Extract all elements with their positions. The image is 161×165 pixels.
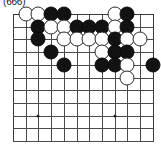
- grid-line-horizontal: [13, 103, 154, 104]
- go-board[interactable]: [10, 11, 157, 159]
- grid-line-horizontal: [13, 90, 154, 91]
- star-point: [113, 114, 116, 117]
- black-stone[interactable]: [56, 57, 71, 72]
- grid-line-horizontal: [13, 128, 154, 129]
- white-stone[interactable]: [133, 32, 148, 47]
- white-stone[interactable]: [120, 70, 135, 85]
- black-stone[interactable]: [31, 32, 46, 47]
- grid-line-horizontal: [13, 141, 154, 142]
- go-board-container: [10, 11, 157, 159]
- star-point: [37, 114, 40, 117]
- diagram-caption: (666): [3, 0, 25, 7]
- black-stone[interactable]: [44, 45, 59, 60]
- black-stone[interactable]: [145, 57, 160, 72]
- grid-line-horizontal: [13, 116, 154, 117]
- go-diagram-root: (666): [0, 0, 161, 165]
